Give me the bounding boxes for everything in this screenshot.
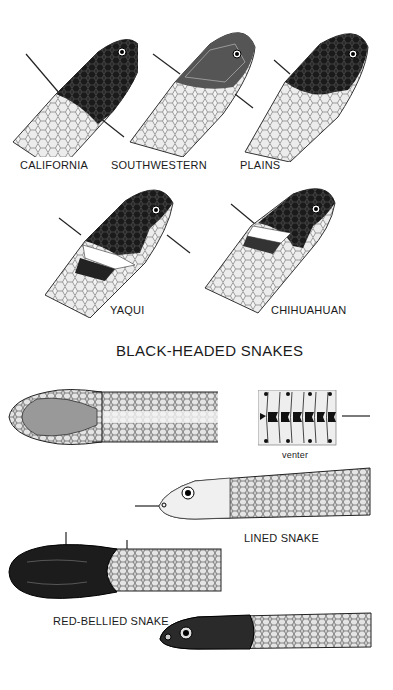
chihuahuan-illustration [203, 188, 343, 318]
lined-snake-lateral-illustration [135, 463, 371, 523]
red-bellied-snake-label: RED-BELLIED SNAKE [53, 615, 169, 627]
southwestern-label: SOUTHWESTERN [111, 159, 207, 171]
venter-label: venter [282, 450, 308, 460]
california-label: CALIFORNIA [20, 159, 88, 171]
red-bellied-snake-lateral-illustration [158, 607, 373, 652]
red-bellied-snake-dorsal-illustration [7, 532, 222, 607]
plains-illustration [240, 22, 380, 162]
plains-label: PLAINS [240, 159, 280, 171]
lined-snake-dorsal-illustration [7, 387, 219, 447]
yaqui-label: YAQUI [110, 304, 144, 316]
section-title: BLACK-HEADED SNAKES [116, 342, 303, 359]
lined-snake-label: LINED SNAKE [244, 532, 319, 544]
yaqui-illustration [45, 183, 195, 318]
california-illustration [8, 22, 138, 157]
venter-illustration [258, 390, 370, 446]
chihuahuan-label: CHIHUAHUAN [271, 304, 346, 316]
